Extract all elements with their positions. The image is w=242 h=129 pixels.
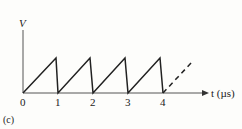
panel-label: (c) [3, 114, 14, 125]
sawtooth-continuation [163, 62, 192, 93]
tick-1: 1 [55, 96, 61, 108]
tick-2: 2 [90, 96, 96, 108]
tick-0: 0 [20, 96, 26, 108]
sawtooth-chart [0, 0, 242, 129]
tick-4: 4 [160, 96, 166, 108]
x-axis-label: t (µs) [211, 87, 235, 99]
sawtooth-wave [23, 58, 163, 93]
y-axis-label: V [19, 17, 26, 29]
x-axis-arrow-icon [202, 90, 209, 96]
tick-3: 3 [125, 96, 131, 108]
